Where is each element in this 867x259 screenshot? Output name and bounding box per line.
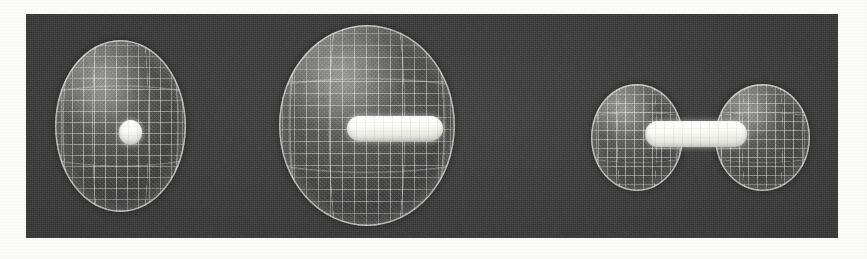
solid-core-sphere bbox=[119, 120, 142, 145]
solid-core-capsule bbox=[347, 116, 443, 141]
render-panel bbox=[26, 14, 838, 238]
core-striation-overlay bbox=[646, 121, 747, 147]
figure-root: Three computer-rendered views of translu… bbox=[0, 0, 867, 259]
solid-core-bond-rod bbox=[646, 121, 747, 147]
core-striation-overlay bbox=[119, 120, 142, 145]
core-striation-overlay bbox=[347, 116, 443, 141]
